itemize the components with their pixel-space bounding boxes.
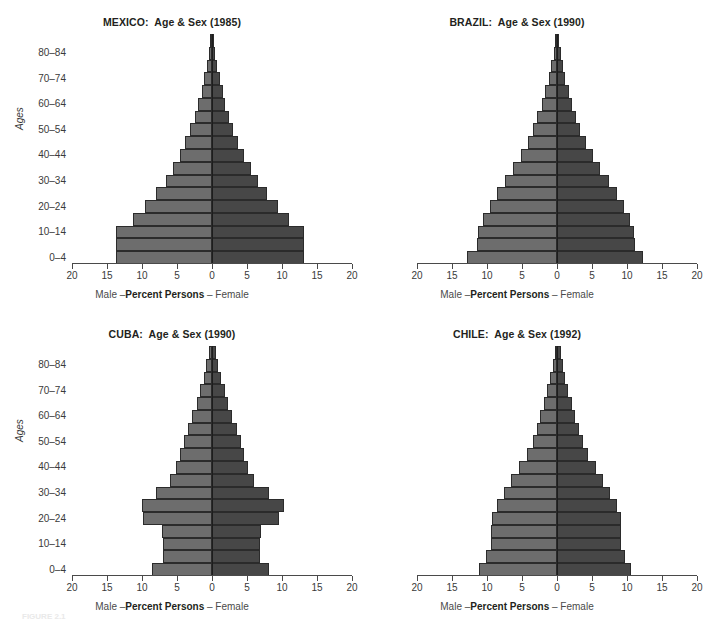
chart-panel-brazil: BRAZIL: Age & Sex (1990) Male –Percent P… [345, 0, 689, 311]
bar-female [212, 487, 269, 500]
bar-female [557, 550, 625, 563]
chart-panel-mexico: MEXICO: Age & Sex (1985) Ages Male –Perc… [0, 0, 344, 311]
bar-male [190, 123, 212, 136]
bar-female [212, 499, 284, 512]
bar-male [116, 226, 212, 239]
x-axis-center-label: Percent Persons [125, 601, 204, 612]
bar-female [212, 238, 304, 251]
bar-male [166, 175, 212, 188]
x-axis-male-label: Male – [95, 601, 125, 612]
bar-female [212, 72, 220, 85]
x-tick [72, 576, 73, 581]
x-tick-label: 10 [122, 582, 162, 593]
bar-male [486, 550, 557, 563]
center-axis-line [557, 34, 558, 264]
bar-female [557, 175, 609, 188]
bar-male [549, 72, 557, 85]
x-tick-label: 20 [397, 270, 437, 281]
y-tick-label: 40–44 [4, 149, 66, 160]
x-tick-label: 0 [537, 270, 577, 281]
bar-male [527, 448, 557, 461]
x-tick [627, 264, 628, 269]
bar-female [212, 85, 223, 98]
bar-female [557, 423, 579, 436]
bar-male [176, 461, 212, 474]
x-tick-label: 0 [537, 582, 577, 593]
x-axis-title-cuba: Male –Percent Persons – Female [0, 601, 344, 612]
x-tick-label: 20 [677, 270, 707, 281]
y-tick-label: 30–34 [4, 487, 66, 498]
x-tick-label: 5 [227, 270, 267, 281]
bar-female [212, 123, 233, 136]
bar-male [483, 213, 557, 226]
x-tick [317, 576, 318, 581]
chart-title-brazil: BRAZIL: Age & Sex (1990) [345, 16, 689, 28]
x-tick [212, 264, 213, 269]
y-tick-label: 0–4 [4, 564, 66, 575]
bar-female [212, 512, 279, 525]
figure-caption: FIGURE 2.1 [22, 612, 66, 621]
bar-male [156, 487, 212, 500]
x-tick [592, 576, 593, 581]
y-tick-label: 20–24 [4, 513, 66, 524]
bar-male [511, 474, 557, 487]
bar-male [542, 98, 557, 111]
bar-male [491, 538, 558, 551]
bar-female [557, 123, 580, 136]
chart-title-chile: CHILE: Age & Sex (1992) [345, 328, 689, 340]
bar-male [477, 238, 558, 251]
x-tick-label: 10 [607, 582, 647, 593]
bar-female [212, 136, 238, 149]
bar-female [212, 461, 248, 474]
bar-female [557, 512, 621, 525]
bar-male [156, 187, 212, 200]
bar-female [557, 200, 624, 213]
chart-panel-chile: CHILE: Age & Sex (1992) Male –Percent Pe… [345, 312, 689, 623]
y-tick-label: 0–4 [4, 252, 66, 263]
x-tick-label: 10 [467, 270, 507, 281]
plot-area-cuba [72, 346, 352, 576]
bar-male [537, 111, 557, 124]
bar-female [557, 136, 586, 149]
x-tick-label: 5 [572, 582, 612, 593]
x-tick-label: 15 [87, 582, 127, 593]
x-tick-label: 15 [297, 270, 337, 281]
plot-area-brazil [417, 34, 697, 264]
bar-female [212, 448, 244, 461]
bar-male [204, 372, 212, 385]
bar-male [188, 423, 212, 436]
x-tick-label: 0 [192, 270, 232, 281]
bar-male [200, 384, 212, 397]
x-tick [317, 264, 318, 269]
x-tick-label: 15 [642, 270, 682, 281]
bar-male [163, 538, 212, 551]
x-axis-female-label: – Female [549, 601, 593, 612]
x-tick [452, 576, 453, 581]
bar-female [557, 487, 610, 500]
bar-male [519, 461, 557, 474]
x-tick-label: 15 [642, 582, 682, 593]
center-axis-line [212, 346, 213, 576]
bar-female [557, 499, 617, 512]
bar-female [212, 175, 258, 188]
bar-male [116, 238, 212, 251]
bar-male [192, 410, 212, 423]
x-tick [697, 264, 698, 269]
x-tick-label: 5 [157, 582, 197, 593]
x-axis-male-label: Male – [440, 601, 470, 612]
y-tick-label: 40–44 [4, 461, 66, 472]
center-axis-line [557, 346, 558, 576]
x-axis-title-mexico: Male –Percent Persons – Female [0, 289, 344, 300]
bar-male [170, 474, 212, 487]
x-tick-label: 20 [52, 582, 92, 593]
bar-male [163, 550, 212, 563]
bar-female [212, 98, 225, 111]
bar-male [504, 487, 557, 500]
x-tick [142, 576, 143, 581]
x-tick [282, 576, 283, 581]
x-axis-title-chile: Male –Percent Persons – Female [345, 601, 689, 612]
x-axis-center-label: Percent Persons [470, 289, 549, 300]
x-tick-label: 15 [432, 270, 472, 281]
bar-male [142, 499, 212, 512]
